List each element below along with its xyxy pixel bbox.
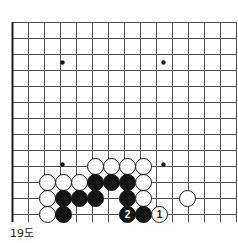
go-diagram: 21 19도: [0, 0, 238, 243]
stone-move-number: 2: [120, 207, 135, 222]
star-point: [161, 60, 165, 64]
go-board[interactable]: 21: [0, 0, 238, 222]
stone-white[interactable]: [39, 190, 56, 207]
stone-black[interactable]: [71, 190, 88, 207]
stone-black[interactable]: [55, 190, 72, 207]
stone-move-number: 1: [152, 207, 167, 222]
stone-black-move-2[interactable]: 2: [119, 206, 136, 223]
stone-white[interactable]: [39, 206, 56, 223]
stone-white[interactable]: [39, 174, 56, 191]
stone-black[interactable]: [87, 190, 104, 207]
stone-black[interactable]: [55, 206, 72, 223]
stone-black[interactable]: [87, 174, 104, 191]
star-point: [161, 162, 165, 166]
stone-white[interactable]: [71, 174, 88, 191]
stone-white[interactable]: [179, 190, 196, 207]
stone-white[interactable]: [87, 158, 104, 175]
stone-white[interactable]: [103, 158, 120, 175]
stone-black[interactable]: [119, 190, 136, 207]
star-point: [60, 162, 64, 166]
diagram-caption: 19도: [10, 224, 34, 240]
board-grid-lines: [0, 0, 238, 222]
stone-black[interactable]: [103, 174, 120, 191]
stone-white[interactable]: [55, 174, 72, 191]
stone-white[interactable]: [135, 158, 152, 175]
stone-white[interactable]: [135, 190, 152, 207]
stone-white[interactable]: [135, 174, 152, 191]
stone-white-move-1[interactable]: 1: [151, 206, 168, 223]
star-point: [60, 60, 64, 64]
stone-white[interactable]: [119, 158, 136, 175]
stone-black[interactable]: [135, 206, 152, 223]
stone-black[interactable]: [119, 174, 136, 191]
